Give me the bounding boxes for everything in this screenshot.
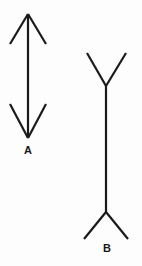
muller-lyer-diagram: A B	[0, 0, 142, 266]
figure-b-fin-bottom-right	[106, 212, 128, 239]
figure-a-fin-top-left	[10, 14, 28, 44]
figure-a-group: A	[10, 14, 46, 156]
figure-b-label: B	[103, 242, 111, 254]
figure-b-fin-bottom-left	[84, 212, 106, 239]
figure-b-group: B	[84, 53, 128, 254]
figure-b-fin-top-left	[87, 53, 106, 86]
figure-a-label: A	[24, 144, 32, 156]
figure-a-fin-bottom-left	[10, 104, 28, 138]
figure-b-fin-top-right	[106, 53, 126, 86]
figure-a-fin-top-right	[28, 14, 46, 44]
muller-lyer-figure-canvas: A B	[0, 0, 142, 266]
figure-a-fin-bottom-right	[28, 104, 46, 138]
